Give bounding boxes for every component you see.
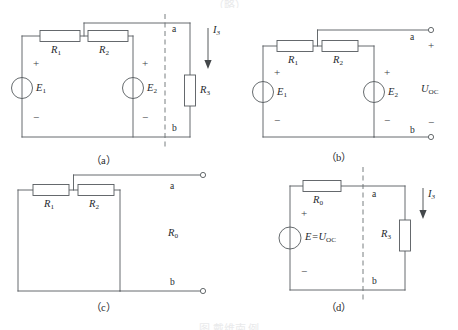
subcaption-d: （d） bbox=[326, 303, 351, 314]
node-a-label-a: a bbox=[172, 25, 176, 35]
resistor-r3-label-d: R3 bbox=[381, 229, 391, 241]
source-e1-label-a: E1 bbox=[36, 83, 46, 95]
node-a-label-c: a bbox=[170, 182, 174, 192]
resistor-r2-label-c: R2 bbox=[89, 199, 99, 211]
resistor-r3-label-a: R3 bbox=[200, 85, 210, 97]
resistor-r2-body-b bbox=[322, 41, 358, 52]
current-arrow-head-d bbox=[419, 210, 426, 219]
minus-sign-e2-b: − bbox=[384, 115, 390, 126]
minus-sign-e2-a: − bbox=[142, 112, 148, 123]
plus-sign-terminal-b: + bbox=[428, 40, 434, 51]
node-b-label-c: b bbox=[170, 278, 175, 288]
minus-sign-e1-a: − bbox=[33, 112, 39, 123]
subcaption-c: （c） bbox=[91, 303, 116, 314]
plus-sign-e1-a: + bbox=[33, 58, 39, 69]
plus-sign-e2-b: + bbox=[384, 67, 390, 78]
source-e2-label-a: E2 bbox=[147, 83, 157, 95]
resistor-r1-label-a: R1 bbox=[51, 45, 61, 57]
resistor-r2-label-b: R2 bbox=[333, 55, 343, 67]
plus-sign-e1-b: + bbox=[274, 67, 280, 78]
minus-sign-terminal-b: − bbox=[428, 117, 434, 128]
node-b-label-d: b bbox=[372, 277, 377, 287]
current-i3-label-d: I3 bbox=[428, 189, 435, 201]
node-a-label-b: a bbox=[410, 33, 414, 43]
minus-sign-e1-b: − bbox=[274, 115, 280, 126]
figure-caption: 图 戴维南 例 bbox=[0, 320, 458, 330]
resistor-r2-body-a bbox=[88, 31, 128, 42]
source-e1-label-b: E1 bbox=[277, 87, 287, 99]
resistor-r1-label-c: R1 bbox=[44, 199, 54, 211]
resistor-r0-label-c: R0 bbox=[168, 228, 178, 240]
terminal-a-dot-b bbox=[428, 27, 433, 32]
current-i3-label-a: I3 bbox=[213, 25, 220, 37]
plus-sign-source-d: + bbox=[301, 208, 307, 219]
resistor-r2-label-a: R2 bbox=[99, 45, 109, 57]
terminal-b-dot-c bbox=[200, 288, 205, 293]
resistor-r1-body-b bbox=[277, 41, 313, 52]
resistor-r1-body-c bbox=[33, 185, 69, 196]
resistor-r1-label-b: R1 bbox=[288, 55, 298, 67]
node-b-label-b: b bbox=[410, 126, 415, 136]
resistor-r1-body-a bbox=[40, 31, 80, 42]
source-e2-label-b: E2 bbox=[388, 87, 398, 99]
subcaption-a: （a） bbox=[91, 156, 116, 167]
open-circuit-voltage-label-b: UOC bbox=[421, 84, 439, 96]
current-arrow-head-a bbox=[204, 60, 211, 69]
resistor-r0-label-d: R0 bbox=[313, 195, 323, 207]
terminal-a-dot-c bbox=[200, 172, 205, 177]
resistor-r2-body-c bbox=[78, 185, 114, 196]
source-voltage-label-d: E=UOC bbox=[305, 232, 336, 244]
subcaption-b: （b） bbox=[326, 153, 351, 164]
resistor-r3-body-d bbox=[400, 220, 411, 251]
resistor-r0-body-d bbox=[303, 181, 341, 192]
minus-sign-source-d: − bbox=[301, 266, 307, 277]
resistor-r3-body-a bbox=[185, 75, 196, 106]
node-b-label-a: b bbox=[172, 124, 177, 134]
plus-sign-e2-a: + bbox=[142, 58, 148, 69]
circuit-d-graphics bbox=[279, 167, 427, 303]
node-a-label-d: a bbox=[372, 190, 376, 200]
terminal-b-dot-b bbox=[428, 134, 433, 139]
